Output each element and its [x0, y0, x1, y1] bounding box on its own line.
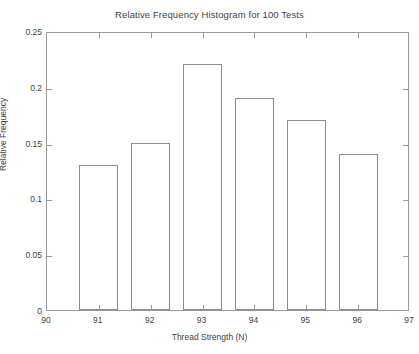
- histogram-bar: [235, 98, 274, 310]
- y-axis-title: Relative Frequency: [0, 98, 8, 171]
- y-tick-mark: [403, 89, 408, 90]
- y-tick-mark: [403, 256, 408, 257]
- x-tick-mark: [358, 33, 359, 38]
- x-tick-mark: [151, 33, 152, 38]
- y-tick-label: 0.15: [2, 139, 42, 149]
- x-tick-label: 93: [182, 315, 222, 325]
- y-tick-label: 0.05: [2, 250, 42, 260]
- x-tick-mark: [151, 305, 152, 310]
- x-tick-label: 96: [337, 315, 377, 325]
- y-tick-label: 0.1: [2, 194, 42, 204]
- x-tick-mark: [306, 33, 307, 38]
- x-axis-title: Thread Strength (N): [0, 332, 419, 342]
- y-tick-label: 0.25: [2, 27, 42, 37]
- y-tick-mark: [47, 89, 52, 90]
- x-tick-mark: [203, 305, 204, 310]
- y-tick-mark: [47, 256, 52, 257]
- x-tick-mark: [99, 33, 100, 38]
- x-tick-mark: [254, 305, 255, 310]
- chart-title: Relative Frequency Histogram for 100 Tes…: [0, 9, 419, 20]
- y-tick-mark: [47, 145, 52, 146]
- x-tick-mark: [203, 33, 204, 38]
- x-tick-mark: [254, 33, 255, 38]
- histogram-bar: [79, 165, 118, 310]
- histogram-figure: Relative Frequency Histogram for 100 Tes…: [0, 0, 419, 354]
- histogram-bar: [131, 143, 170, 310]
- x-tick-label: 97: [389, 315, 419, 325]
- plot-area: [46, 32, 409, 311]
- x-tick-label: 91: [78, 315, 118, 325]
- y-tick-mark: [403, 200, 408, 201]
- y-tick-mark: [403, 145, 408, 146]
- y-tick-label: 0.2: [2, 83, 42, 93]
- histogram-bar: [287, 120, 326, 310]
- y-tick-mark: [47, 200, 52, 201]
- x-tick-mark: [358, 305, 359, 310]
- x-tick-mark: [99, 305, 100, 310]
- x-tick-label: 94: [233, 315, 273, 325]
- histogram-bar: [183, 64, 222, 310]
- x-tick-label: 90: [26, 315, 66, 325]
- x-tick-label: 95: [285, 315, 325, 325]
- x-tick-mark: [306, 305, 307, 310]
- x-tick-label: 92: [130, 315, 170, 325]
- histogram-bar: [339, 154, 378, 310]
